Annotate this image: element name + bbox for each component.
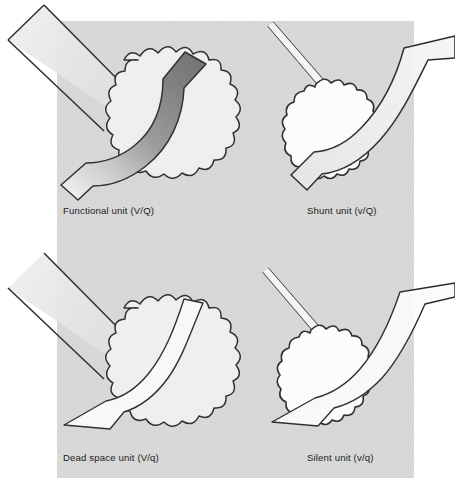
vq-units-diagram xyxy=(0,0,455,490)
figure-root: Functional unit (V/Q) Shunt unit (v/Q) D… xyxy=(0,0,455,490)
paper-grain-overlay xyxy=(57,21,414,478)
unit-label-dead-space: Dead space unit (V/q) xyxy=(63,452,159,463)
unit-label-silent: Silent unit (v/q) xyxy=(307,452,374,463)
unit-label-shunt: Shunt unit (v/Q) xyxy=(307,205,377,216)
unit-label-functional: Functional unit (V/Q) xyxy=(63,205,154,216)
